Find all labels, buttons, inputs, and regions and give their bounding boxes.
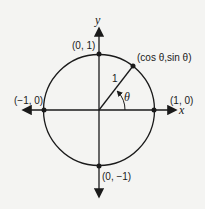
point-general <box>131 64 136 69</box>
label-left: (−1, 0) <box>14 95 43 106</box>
angle-label: θ <box>124 90 130 104</box>
label-bottom: (0, −1) <box>102 171 131 182</box>
label-top: (0, 1) <box>72 40 95 51</box>
point-right <box>152 108 157 113</box>
unit-circle-diagram: y x (0, 1) (0, −1) (−1, 0) (1, 0) (cos θ… <box>0 0 205 209</box>
point-top <box>97 52 102 57</box>
point-left <box>42 108 47 113</box>
point-bottom <box>97 164 102 169</box>
label-right: (1, 0) <box>170 95 193 106</box>
y-axis-label: y <box>94 13 101 27</box>
label-general: (cos θ,sin θ) <box>137 52 191 63</box>
radius-label: 1 <box>112 73 118 84</box>
